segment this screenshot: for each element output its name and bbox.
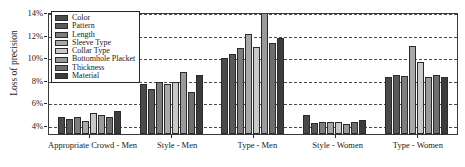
x-tick-label: Type - Women bbox=[378, 140, 458, 150]
y-tick-label: 6% bbox=[17, 99, 43, 108]
bar bbox=[58, 117, 65, 135]
bar bbox=[351, 122, 358, 134]
bar bbox=[319, 122, 326, 134]
bar bbox=[90, 113, 97, 134]
bar bbox=[253, 47, 260, 134]
bar bbox=[425, 77, 432, 134]
legend-swatch bbox=[55, 65, 68, 71]
bar bbox=[196, 75, 203, 134]
bar bbox=[237, 48, 244, 134]
bar bbox=[188, 92, 195, 134]
bar bbox=[180, 72, 187, 134]
x-tick-mark bbox=[171, 135, 172, 138]
y-tick-mark bbox=[44, 36, 47, 37]
y-tick-mark bbox=[44, 81, 47, 82]
bar bbox=[417, 62, 424, 134]
bar-group bbox=[294, 14, 376, 134]
bar bbox=[140, 84, 147, 134]
bar bbox=[441, 77, 448, 134]
bar-group bbox=[375, 14, 457, 134]
x-tick-label: Style - Men bbox=[137, 140, 217, 150]
y-tick-mark bbox=[44, 126, 47, 127]
legend-label: Material bbox=[72, 72, 99, 80]
x-tick-label: Style - Women bbox=[298, 140, 378, 150]
legend-swatch bbox=[55, 23, 68, 29]
bar bbox=[156, 82, 163, 134]
y-tick-label: 12% bbox=[17, 31, 43, 40]
bar bbox=[277, 38, 284, 134]
bar bbox=[172, 82, 179, 134]
bar bbox=[401, 76, 408, 134]
bar-group bbox=[212, 14, 294, 134]
legend-swatch bbox=[55, 73, 68, 79]
y-tick-mark bbox=[44, 103, 47, 104]
bar bbox=[229, 54, 236, 134]
bar bbox=[66, 119, 73, 134]
legend-swatch bbox=[55, 15, 68, 21]
y-tick-label: 10% bbox=[17, 54, 43, 63]
bar bbox=[74, 117, 81, 135]
bar bbox=[409, 46, 416, 134]
x-tick-mark bbox=[253, 135, 254, 138]
y-axis-tick-labels: 4%6%8%10%12%14% bbox=[0, 0, 43, 167]
legend-swatch bbox=[55, 40, 68, 46]
bar bbox=[393, 75, 400, 134]
bar bbox=[327, 122, 334, 134]
legend-item: Color bbox=[55, 14, 135, 22]
bar bbox=[245, 34, 252, 134]
x-tick-label: Type - Men bbox=[217, 140, 297, 150]
bar bbox=[303, 115, 310, 134]
legend-item: Pattern bbox=[55, 22, 135, 30]
bar bbox=[98, 115, 105, 134]
y-tick-mark bbox=[44, 58, 47, 59]
y-tick-label: 14% bbox=[17, 9, 43, 18]
bar bbox=[433, 75, 440, 134]
bar bbox=[343, 124, 350, 134]
bar-group bbox=[131, 14, 213, 134]
bar bbox=[106, 117, 113, 134]
legend-item: Material bbox=[55, 72, 135, 80]
x-tick-mark bbox=[335, 135, 336, 138]
bar bbox=[335, 122, 342, 134]
bar bbox=[385, 77, 392, 134]
bar bbox=[269, 43, 276, 134]
x-tick-mark bbox=[89, 135, 90, 138]
bar bbox=[114, 111, 121, 134]
chart-legend: ColorPatternLengthSleeve TypeCollar Type… bbox=[51, 11, 140, 83]
bar bbox=[82, 121, 89, 134]
y-tick-label: 4% bbox=[17, 122, 43, 131]
x-axis-tick-labels: Appropriate Crowd - MenStyle - MenType -… bbox=[48, 140, 458, 150]
bar bbox=[164, 84, 171, 134]
bar bbox=[221, 58, 228, 134]
x-tick-label: Appropriate Crowd - Men bbox=[48, 140, 137, 150]
y-tick-label: 8% bbox=[17, 77, 43, 86]
legend-swatch bbox=[55, 32, 68, 38]
legend-swatch bbox=[55, 48, 68, 54]
x-tick-mark bbox=[417, 135, 418, 138]
bar bbox=[311, 123, 318, 134]
legend-swatch bbox=[55, 57, 68, 63]
bar bbox=[261, 13, 268, 134]
bar bbox=[148, 89, 155, 134]
bar bbox=[359, 120, 366, 134]
y-tick-mark bbox=[44, 13, 47, 14]
chart-figure: Loss of precision 4%6%8%10%12%14% Approp… bbox=[0, 0, 465, 167]
